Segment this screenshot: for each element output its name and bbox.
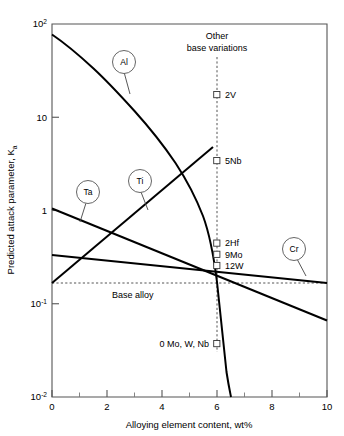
x-tick-label-6: 6: [214, 401, 219, 412]
x-tick-label-8: 8: [269, 401, 274, 412]
marker-12w-label: 12W: [225, 261, 244, 271]
marker-12w-square: [214, 262, 220, 268]
y-tick-label-1: 1: [42, 205, 47, 216]
marker-9mo-square: [214, 251, 220, 257]
x-tick-label-10: 10: [322, 401, 333, 412]
callout-ti-label: Ti: [137, 176, 144, 186]
chart-figure: 102 10 1 10-1 10-2 0 2 4 6 8 10 Alloying…: [0, 0, 344, 436]
other-base-variations-line2: base variations: [187, 43, 248, 53]
marker-2hf-label: 2Hf: [225, 238, 240, 248]
x-axis-title: Alloying element content, wt%: [126, 419, 253, 430]
marker-5nb-square: [214, 158, 220, 164]
marker-zero-mo-w-nb-square: [214, 341, 220, 347]
callout-ta-label: Ta: [84, 187, 93, 197]
x-tick-label-0: 0: [49, 401, 54, 412]
marker-9mo-label: 9Mo: [225, 250, 243, 260]
x-tick-label-2: 2: [104, 401, 109, 412]
other-base-variations-line1: Other: [206, 31, 229, 41]
callout-cr-label: Cr: [290, 244, 299, 254]
marker-2hf-square: [214, 240, 220, 246]
base-alloy-label: Base alloy: [112, 290, 154, 300]
x-tick-label-4: 4: [159, 401, 164, 412]
marker-2v-square: [214, 92, 220, 98]
marker-2v-label: 2V: [225, 90, 236, 100]
callout-al-label: Al: [120, 57, 128, 67]
marker-5nb-label: 5Nb: [225, 156, 242, 166]
y-axis-title-text: Predicted attack parameter, K: [5, 149, 16, 275]
chart-svg: 102 10 1 10-1 10-2 0 2 4 6 8 10 Alloying…: [0, 0, 344, 436]
marker-zero-mo-w-nb-label: 0 Mo, W, Nb: [159, 339, 209, 349]
y-tick-label-10: 10: [36, 112, 47, 123]
